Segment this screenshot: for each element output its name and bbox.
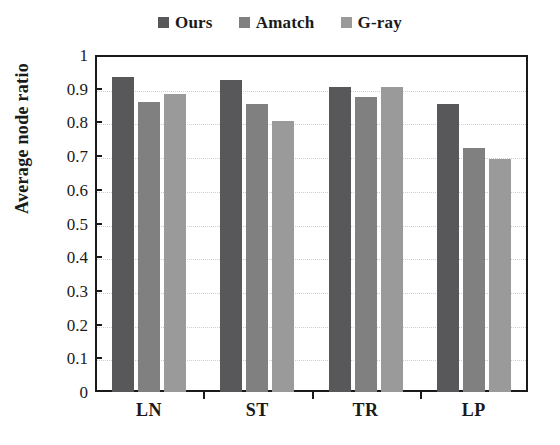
y-axis-tick-label: 0.8 [48, 114, 88, 131]
y-axis-tick-mark [95, 357, 102, 359]
gridline [97, 124, 526, 125]
y-axis-tick-label: 0.9 [48, 80, 88, 97]
gridline [97, 226, 526, 227]
legend-swatch-icon [239, 17, 250, 28]
x-axis-tick-mark [420, 392, 422, 399]
y-axis-tick-label: 0.5 [48, 215, 88, 232]
x-axis-tick-mark [312, 392, 314, 399]
legend-item[interactable]: G-ray [341, 14, 402, 31]
y-axis-tick-mark [95, 189, 102, 191]
y-axis-tick-label: 0.4 [48, 249, 88, 266]
gridline [97, 158, 526, 159]
y-axis-tick-label: 0.7 [48, 148, 88, 165]
gridline [97, 360, 526, 361]
y-axis-title: Average node ratio [12, 39, 33, 239]
y-axis-tick-mark [95, 155, 102, 157]
y-axis-tick-mark [95, 88, 102, 90]
legend-swatch-icon [158, 17, 169, 28]
legend-label: G-ray [358, 14, 402, 31]
y-axis-tick-marks [95, 55, 103, 392]
y-axis-tick-label: 1 [48, 47, 88, 64]
plot-area [95, 55, 528, 392]
legend-label: Amatch [256, 14, 315, 31]
y-axis-tick-label: 0.6 [48, 181, 88, 198]
y-axis-tick-label: 0.1 [48, 350, 88, 367]
x-axis-tick-label-lp: LP [420, 400, 528, 421]
legend-label: Ours [175, 14, 213, 31]
y-axis-tick-mark [95, 290, 102, 292]
gridline [97, 259, 526, 260]
gridline [97, 91, 526, 92]
y-axis-tick-mark [95, 223, 102, 225]
bar-chart: OursAmatchG-ray Average node ratio 10.90… [0, 0, 560, 445]
chart-legend: OursAmatchG-ray [0, 14, 560, 31]
y-axis-tick-mark [95, 256, 102, 258]
legend-item[interactable]: Ours [158, 14, 213, 31]
gridline [97, 327, 526, 328]
legend-item[interactable]: Amatch [239, 14, 315, 31]
y-axis-tick-label: 0 [48, 384, 88, 401]
y-axis-tick-labels: 10.90.80.70.60.50.40.30.20.10 [40, 55, 88, 392]
x-axis-tick-label-tr: TR [312, 400, 420, 421]
gridline [97, 293, 526, 294]
y-axis-tick-mark [95, 121, 102, 123]
y-axis-tick-label: 0.3 [48, 282, 88, 299]
legend-swatch-icon [341, 17, 352, 28]
gridline [97, 192, 526, 193]
x-axis-tick-labels: LNSTTRLP [95, 400, 528, 421]
y-axis-tick-label: 0.2 [48, 316, 88, 333]
y-axis-tick-mark [95, 324, 102, 326]
x-axis-tick-label-ln: LN [95, 400, 203, 421]
x-axis-tick-label-st: ST [203, 400, 311, 421]
x-axis-tick-marks [95, 392, 528, 400]
x-axis-tick-mark [203, 392, 205, 399]
